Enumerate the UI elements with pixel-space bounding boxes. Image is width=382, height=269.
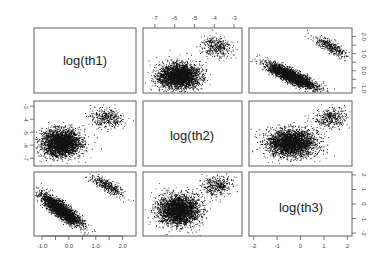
x-tick-th3: 0 bbox=[299, 243, 303, 249]
y-tick-th1: 2.0 bbox=[361, 32, 367, 41]
diag-label-th2: log(th2) bbox=[170, 128, 214, 143]
x-tick-th1: 2.0 bbox=[118, 243, 127, 249]
x-tick-th2: -4 bbox=[212, 15, 218, 21]
x-tick-th3: -1 bbox=[274, 243, 280, 249]
y-tick-th1: 1.0 bbox=[361, 49, 367, 58]
x-tick-th3: 1 bbox=[322, 243, 326, 249]
y-tick-th2: -7 bbox=[23, 156, 29, 162]
y-tick-th3: 0 bbox=[361, 202, 367, 206]
y-tick-th2: -5 bbox=[23, 130, 29, 136]
x-tick-th2: -3 bbox=[231, 15, 237, 21]
x-tick-th2: -7 bbox=[152, 15, 158, 21]
diag-label-th3: log(th3) bbox=[279, 200, 323, 215]
y-tick-th2: -6 bbox=[23, 143, 29, 149]
x-tick-th1: -1.0 bbox=[37, 243, 48, 249]
scatterplot-matrix: log(th1) log(th2) log(th3) -1.00.01.02.0… bbox=[0, 0, 382, 269]
y-tick-th1: -1.0 bbox=[361, 83, 367, 94]
y-tick-th3: -1 bbox=[361, 216, 367, 222]
x-tick-th3: 2 bbox=[346, 243, 350, 249]
y-tick-th1: 0.0 bbox=[361, 67, 367, 76]
y-tick-th2: -4 bbox=[23, 117, 29, 123]
y-tick-th2: -3 bbox=[23, 104, 29, 110]
diag-label-th1: log(th1) bbox=[63, 53, 107, 68]
x-tick-th1: 0.0 bbox=[65, 243, 74, 249]
x-tick-th3: -2 bbox=[251, 243, 257, 249]
y-tick-th3: 2 bbox=[361, 173, 367, 177]
x-tick-th1: 1.0 bbox=[92, 243, 101, 249]
y-tick-th3: 1 bbox=[361, 188, 367, 192]
x-tick-th2: -5 bbox=[192, 15, 198, 21]
y-tick-th3: -2 bbox=[361, 230, 367, 236]
x-tick-th2: -6 bbox=[172, 15, 178, 21]
